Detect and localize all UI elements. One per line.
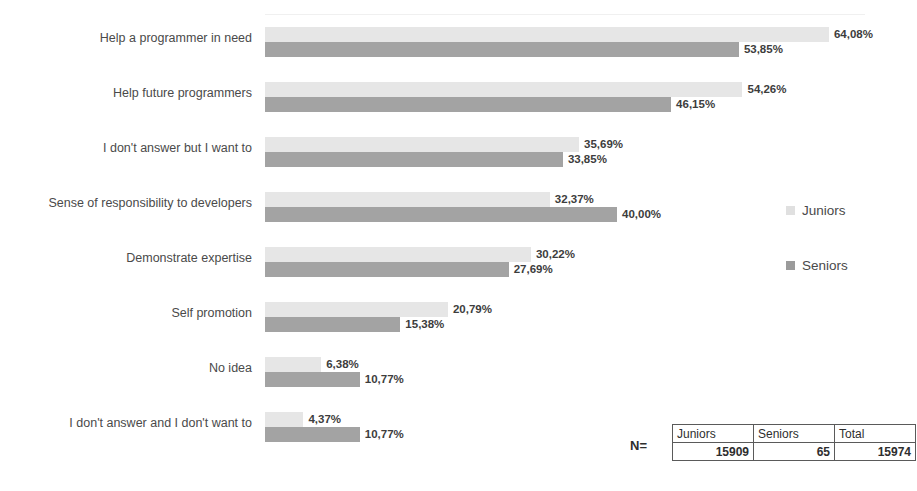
- n-summary-table: Juniors Seniors Total 15909 65 15974: [672, 424, 916, 461]
- bar-juniors[interactable]: [265, 302, 448, 317]
- table-row-header: Juniors Seniors Total: [673, 425, 916, 443]
- bar-value-juniors: 4,37%: [308, 413, 341, 426]
- category-label: Self promotion: [0, 305, 252, 321]
- table-cell-seniors-n: 65: [754, 443, 835, 461]
- category-label: Help a programmer in need: [0, 30, 252, 46]
- bar-value-juniors: 64,08%: [834, 28, 873, 41]
- category-label: I don't answer but I want to: [0, 140, 252, 156]
- table-header-juniors: Juniors: [673, 425, 754, 443]
- chart-category-row: Sense of responsibility to developers32,…: [0, 183, 917, 238]
- category-label: I don't answer and I don't want to: [0, 415, 252, 431]
- legend-label-juniors: Juniors: [802, 203, 846, 218]
- bar-juniors[interactable]: [265, 247, 531, 262]
- bar-juniors[interactable]: [265, 82, 742, 97]
- bar-value-juniors: 54,26%: [747, 83, 786, 96]
- chart-category-row: Help future programmers54,26%46,15%: [0, 73, 917, 128]
- bar-value-juniors: 30,22%: [536, 248, 575, 261]
- bar-seniors[interactable]: [265, 427, 360, 442]
- chart-category-row: No idea6,38%10,77%: [0, 348, 917, 403]
- bar-seniors[interactable]: [265, 262, 509, 277]
- category-label: No idea: [0, 360, 252, 376]
- table-cell-juniors-n: 15909: [673, 443, 754, 461]
- bar-seniors[interactable]: [265, 207, 617, 222]
- legend-item-seniors[interactable]: Seniors: [786, 258, 848, 273]
- chart-category-row: Self promotion20,79%15,38%: [0, 293, 917, 348]
- bar-value-juniors: 35,69%: [584, 138, 623, 151]
- bar-value-seniors: 10,77%: [365, 428, 404, 441]
- bar-seniors[interactable]: [265, 372, 360, 387]
- bar-juniors[interactable]: [265, 357, 321, 372]
- chart-category-row: I don't answer but I want to35,69%33,85%: [0, 128, 917, 183]
- n-equals-label: N=: [630, 438, 647, 453]
- legend-swatch-seniors-icon: [786, 261, 795, 270]
- legend-swatch-juniors-icon: [786, 206, 795, 215]
- bar-value-juniors: 6,38%: [326, 358, 359, 371]
- bar-value-juniors: 32,37%: [555, 193, 594, 206]
- bar-juniors[interactable]: [265, 137, 579, 152]
- bar-seniors[interactable]: [265, 97, 671, 112]
- category-label: Help future programmers: [0, 85, 252, 101]
- bar-value-seniors: 53,85%: [744, 43, 783, 56]
- bar-seniors[interactable]: [265, 42, 739, 57]
- table-row-values: 15909 65 15974: [673, 443, 916, 461]
- category-label: Sense of responsibility to developers: [0, 195, 252, 211]
- bar-value-seniors: 27,69%: [514, 263, 553, 276]
- table-cell-total-n: 15974: [835, 443, 916, 461]
- table-header-total: Total: [835, 425, 916, 443]
- bar-seniors[interactable]: [265, 152, 563, 167]
- bar-value-seniors: 10,77%: [365, 373, 404, 386]
- bar-value-seniors: 33,85%: [568, 153, 607, 166]
- chart-category-row: Help a programmer in need64,08%53,85%: [0, 18, 917, 73]
- chart-category-row: Demonstrate expertise30,22%27,69%: [0, 238, 917, 293]
- bar-juniors[interactable]: [265, 412, 303, 427]
- bar-value-seniors: 15,38%: [405, 318, 444, 331]
- table-header-seniors: Seniors: [754, 425, 835, 443]
- plot-area-top-rule: [265, 14, 865, 15]
- bar-value-seniors: 46,15%: [676, 98, 715, 111]
- legend-label-seniors: Seniors: [802, 258, 848, 273]
- bar-juniors[interactable]: [265, 27, 829, 42]
- legend-item-juniors[interactable]: Juniors: [786, 203, 846, 218]
- bar-juniors[interactable]: [265, 192, 550, 207]
- grouped-bar-chart: Help a programmer in need64,08%53,85%Hel…: [0, 0, 917, 491]
- bar-seniors[interactable]: [265, 317, 400, 332]
- bar-value-seniors: 40,00%: [622, 208, 661, 221]
- category-label: Demonstrate expertise: [0, 250, 252, 266]
- bar-value-juniors: 20,79%: [453, 303, 492, 316]
